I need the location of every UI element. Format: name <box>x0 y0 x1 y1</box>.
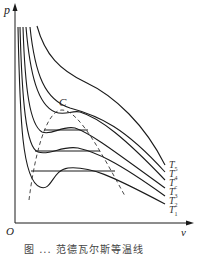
y-axis-label: p <box>4 4 10 16</box>
x-axis-label: v <box>181 227 186 238</box>
isotherm-curves <box>18 26 165 204</box>
isotherm-t3 <box>23 27 165 188</box>
y-axis-arrow-icon <box>13 3 18 11</box>
isotherm-label-t1: T1 <box>169 205 178 217</box>
tie-lines <box>31 130 115 171</box>
isotherm-t4 <box>30 27 165 172</box>
axes <box>13 3 195 226</box>
critical-point-label: C <box>59 97 66 108</box>
coexistence-dome-dashed <box>29 110 125 200</box>
isotherm-t5 <box>37 26 165 165</box>
origin-label: O <box>6 226 14 237</box>
x-axis-arrow-icon <box>186 221 194 226</box>
figure-caption: 图 ... 范德瓦尔斯等温线 <box>24 241 144 256</box>
